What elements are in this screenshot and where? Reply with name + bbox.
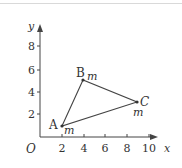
y-axis-label: y <box>27 20 35 33</box>
figure-frame: 2 4 6 8 10 2 4 6 8 y x O A m B m C m <box>0 0 182 168</box>
origin-label: O <box>26 142 36 156</box>
point-b-mark: m <box>87 70 97 83</box>
x-axis-label: x <box>164 142 171 155</box>
point-c-mark: m <box>133 106 143 119</box>
point-a-label: A <box>48 118 58 132</box>
x-tick-label: 4 <box>81 142 88 155</box>
y-tick-label: 4 <box>28 86 35 99</box>
x-tick-label: 2 <box>59 142 66 155</box>
point-c-marker <box>135 100 138 103</box>
y-axis-arrow-icon <box>37 24 43 32</box>
point-b-label: B <box>76 66 85 80</box>
triangle-abc <box>62 80 137 126</box>
coordinate-plane: 2 4 6 8 10 2 4 6 8 y x O A m B m C m <box>0 0 182 168</box>
x-tick-label: 10 <box>142 142 156 155</box>
x-tick-label: 8 <box>124 142 131 155</box>
y-tick-label: 8 <box>28 40 35 53</box>
y-tick-label: 2 <box>28 108 35 121</box>
x-tick-label: 6 <box>102 142 109 155</box>
y-tick-label: 6 <box>28 64 35 77</box>
point-a-mark: m <box>64 124 74 137</box>
x-axis-arrow-icon <box>150 134 158 140</box>
